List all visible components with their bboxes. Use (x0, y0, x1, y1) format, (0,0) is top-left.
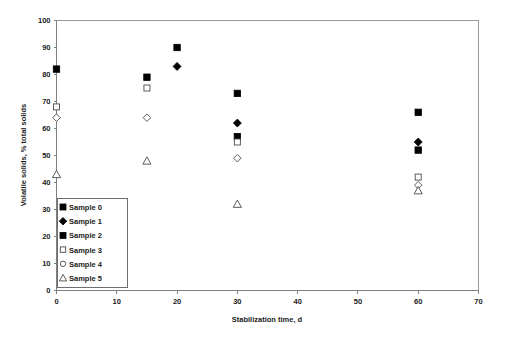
legend-label-sample-5: Sample 5 (69, 274, 102, 283)
y-tick-label: 70 (42, 97, 50, 106)
data-point (234, 139, 240, 145)
legend-label-sample-2: Sample 2 (69, 231, 102, 240)
x-tick-label: 60 (414, 297, 422, 306)
data-point (415, 174, 421, 180)
data-point (144, 74, 150, 80)
legend-marker-sample-2 (60, 232, 66, 238)
y-tick-label: 30 (42, 205, 50, 214)
y-tick-label: 20 (42, 232, 50, 241)
y-tick-label: 90 (42, 43, 50, 52)
x-tick-label: 50 (354, 297, 362, 306)
scatter-plot: 0102030405060708090100 010203040506070 S… (0, 0, 508, 338)
y-tick-label: 100 (38, 16, 51, 25)
y-tick-label: 0 (46, 286, 50, 295)
y-tick-label: 10 (42, 259, 50, 268)
data-point (415, 109, 421, 115)
x-tick-label: 40 (293, 297, 301, 306)
x-tick-label: 0 (54, 297, 58, 306)
legend-label-sample-3: Sample 3 (69, 246, 102, 255)
x-tick-label: 10 (113, 297, 121, 306)
legend-label-sample-0: Sample 0 (69, 203, 102, 212)
data-point (234, 90, 240, 96)
y-tick-label: 80 (42, 70, 50, 79)
legend-label-sample-4: Sample 4 (69, 260, 103, 269)
chart-container: 0102030405060708090100 010203040506070 S… (0, 0, 508, 338)
y-axis-title: Volatile solids, % total solids (19, 104, 28, 206)
x-tick-label: 20 (173, 297, 181, 306)
y-tick-label: 40 (42, 178, 50, 187)
legend-marker-sample-3 (60, 247, 65, 252)
data-point (53, 66, 59, 72)
legend-marker-sample-0 (60, 204, 66, 210)
data-point (415, 147, 421, 153)
data-point (174, 44, 180, 50)
legend-marker-sample-4 (60, 261, 65, 266)
legend-label-sample-1: Sample 1 (69, 217, 102, 226)
data-point (144, 85, 150, 91)
data-point (54, 104, 60, 110)
x-tick-label: 30 (233, 297, 241, 306)
x-axis-title: Stabilization time, d (232, 315, 303, 324)
x-tick-label: 70 (474, 297, 482, 306)
y-tick-label: 50 (42, 151, 50, 160)
legend: Sample 0Sample 1Sample 2Sample 3Sample 4… (58, 199, 128, 288)
y-tick-label: 60 (42, 124, 50, 133)
